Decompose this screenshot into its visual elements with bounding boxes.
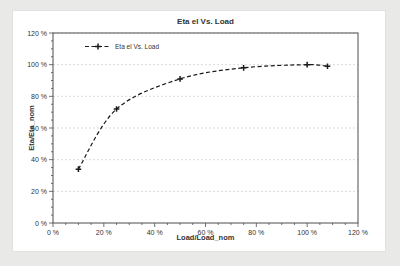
y-tick-label: 20 % [31, 188, 47, 195]
legend: Eta el Vs. Load [85, 42, 159, 51]
chart-card: Eta el Vs. Load 0 %20 %40 %60 %80 %100 %… [12, 10, 386, 252]
y-axis-title: Eta/Eta_nom [27, 105, 36, 150]
legend-entry-label: Eta el Vs. Load [115, 43, 159, 50]
y-tick-label: 100 % [27, 61, 47, 68]
page-background: { "page": { "background": "#e9eae8" }, "… [0, 0, 400, 266]
y-tick-label: 80 % [31, 93, 47, 100]
y-tick-label: 40 % [31, 156, 47, 163]
y-tick-label: 0 % [35, 220, 47, 227]
legend-dashed-line-marker-icon [85, 42, 111, 51]
y-tick-label: 120 % [27, 30, 47, 37]
plot-area: 0 %20 %40 %60 %80 %100 %120 %0 %20 %40 %… [13, 11, 387, 253]
x-axis-title: Load/Load_nom [53, 233, 358, 242]
